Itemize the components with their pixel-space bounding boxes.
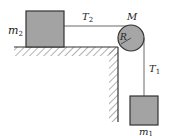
label-m2: m2	[8, 24, 23, 38]
table-surface-hatch	[14, 47, 118, 56]
table-wall-hatch	[109, 47, 118, 122]
block-m1	[130, 96, 158, 125]
label-t2: T2	[82, 11, 93, 24]
block-m2	[26, 11, 64, 47]
label-pulley-mass: M	[126, 11, 138, 22]
label-radius: R	[119, 32, 127, 42]
label-t1: T1	[149, 63, 160, 76]
label-m1: m1	[139, 126, 153, 136]
physics-diagram: m2 T2 M R T1 m1	[0, 0, 171, 136]
